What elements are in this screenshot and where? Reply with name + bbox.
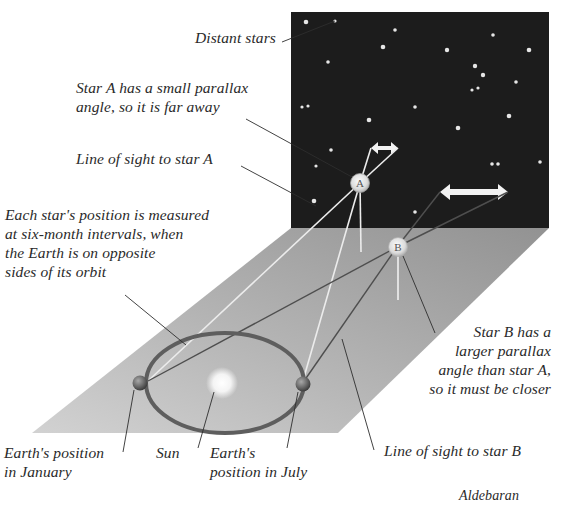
credit-aldebaran: Aldebaran: [459, 486, 519, 505]
label-sun: Sun: [156, 443, 180, 462]
label-six-month-intervals: Each star's position is measured at six-…: [5, 205, 209, 281]
label-earth-january: Earth's position in January: [4, 443, 104, 481]
label-star-b-larger-parallax: Star B has a larger parallax angle than …: [429, 322, 551, 398]
sun: [206, 367, 238, 399]
label-line-of-sight-b: Line of sight to star B: [384, 441, 521, 460]
earth-july: [296, 377, 311, 392]
star-b-letter: B: [394, 241, 401, 253]
label-distant-stars: Distant stars: [195, 28, 276, 47]
earth-january: [133, 376, 148, 391]
label-star-a-small-parallax: Star A has a small parallax angle, so it…: [76, 78, 248, 116]
star-a-letter: A: [356, 177, 364, 189]
label-line-of-sight-a: Line of sight to star A: [76, 149, 213, 168]
label-earth-july: Earth's position in July: [210, 443, 307, 481]
night-sky-panel: [291, 12, 549, 228]
